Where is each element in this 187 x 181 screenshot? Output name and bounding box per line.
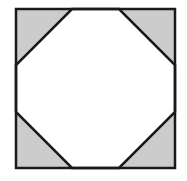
square-octagon-diagram	[0, 0, 187, 181]
